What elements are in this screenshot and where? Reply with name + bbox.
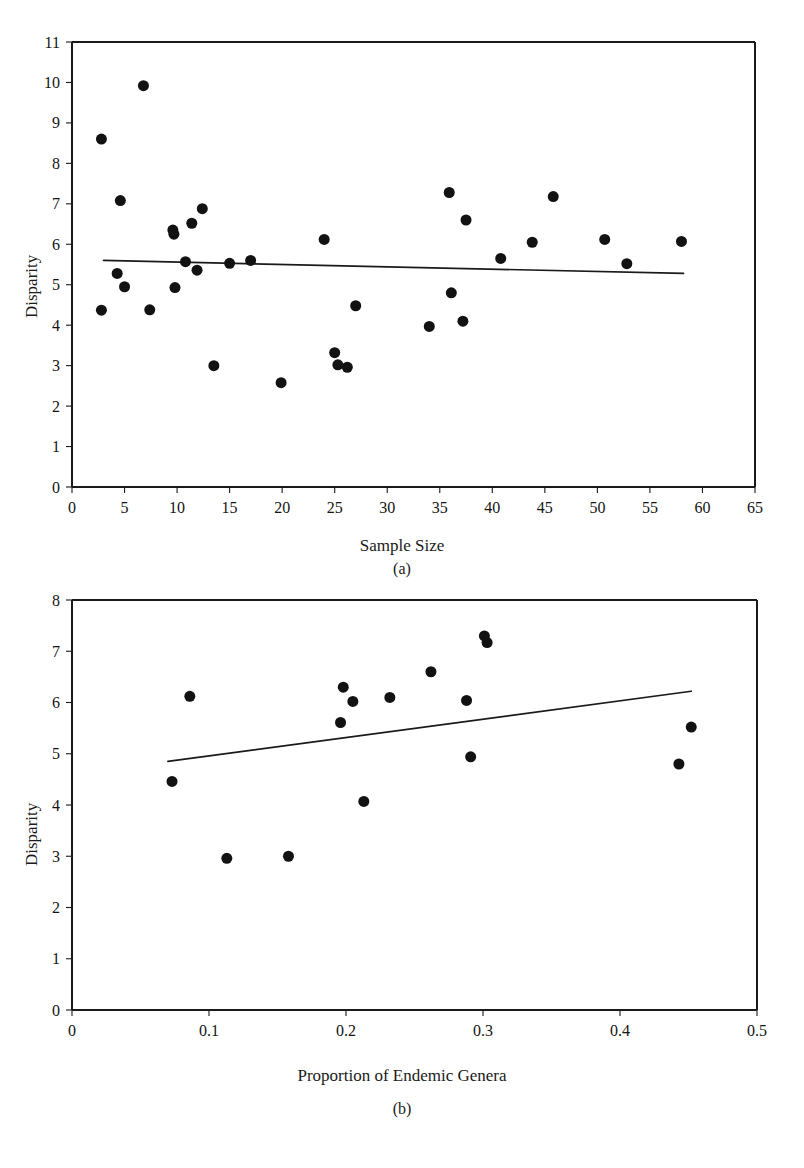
svg-text:3: 3 <box>52 848 60 865</box>
svg-text:6: 6 <box>52 236 60 253</box>
svg-text:40: 40 <box>484 499 500 516</box>
svg-text:15: 15 <box>222 499 238 516</box>
svg-text:9: 9 <box>52 114 60 131</box>
x-axis-label-a: Sample Size <box>0 536 804 556</box>
svg-text:0: 0 <box>52 1002 60 1019</box>
figure-page: 0123456789101105101520253035404550556065… <box>0 0 804 1168</box>
svg-text:45: 45 <box>537 499 553 516</box>
scatter-panel-a: 0123456789101105101520253035404550556065… <box>0 18 804 578</box>
svg-text:1: 1 <box>52 950 60 967</box>
data-point <box>495 253 506 264</box>
svg-text:5: 5 <box>52 276 60 293</box>
svg-text:35: 35 <box>432 499 448 516</box>
data-point <box>96 134 107 145</box>
scatter-plot-b-svg: 01234567800.10.20.30.40.5 <box>0 578 804 1058</box>
data-point <box>350 300 361 311</box>
y-axis-ticks: 012345678 <box>52 592 72 1019</box>
svg-text:0: 0 <box>68 499 76 516</box>
svg-text:30: 30 <box>379 499 395 516</box>
data-point <box>424 321 435 332</box>
data-point <box>96 305 107 316</box>
data-point <box>276 377 287 388</box>
data-point <box>621 258 632 269</box>
data-point <box>192 265 203 276</box>
svg-text:8: 8 <box>52 155 60 172</box>
svg-text:55: 55 <box>642 499 658 516</box>
svg-text:2: 2 <box>52 899 60 916</box>
scatter-plot-a-svg: 0123456789101105101520253035404550556065 <box>0 18 804 528</box>
data-point <box>673 759 684 770</box>
data-points <box>167 630 697 863</box>
svg-text:0.2: 0.2 <box>336 1022 356 1039</box>
y-axis-ticks: 01234567891011 <box>44 34 72 496</box>
data-point <box>461 695 472 706</box>
data-point <box>358 796 369 807</box>
data-point <box>599 234 610 245</box>
svg-text:11: 11 <box>45 34 60 51</box>
data-point <box>144 304 155 315</box>
data-point <box>197 203 208 214</box>
panel-caption-b: (b) <box>0 1100 804 1118</box>
data-points <box>96 80 687 388</box>
data-point <box>221 853 232 864</box>
svg-text:0: 0 <box>68 1022 76 1039</box>
svg-text:50: 50 <box>589 499 605 516</box>
svg-text:3: 3 <box>52 357 60 374</box>
svg-text:10: 10 <box>169 499 185 516</box>
data-point <box>335 717 346 728</box>
svg-text:7: 7 <box>52 643 60 660</box>
svg-text:7: 7 <box>52 195 60 212</box>
axis-frame <box>72 42 755 487</box>
svg-text:0.1: 0.1 <box>199 1022 219 1039</box>
y-axis-label-b: Disparity <box>22 803 42 866</box>
data-point <box>138 80 149 91</box>
data-point <box>319 234 330 245</box>
data-point <box>169 282 180 293</box>
data-point <box>457 316 468 327</box>
data-point <box>184 691 195 702</box>
data-point <box>180 256 191 267</box>
svg-text:0.5: 0.5 <box>747 1022 767 1039</box>
data-point <box>283 851 294 862</box>
data-point <box>482 637 493 648</box>
regression-line <box>168 691 691 761</box>
svg-text:2: 2 <box>52 398 60 415</box>
svg-text:20: 20 <box>274 499 290 516</box>
svg-text:0.3: 0.3 <box>473 1022 493 1039</box>
svg-text:5: 5 <box>52 745 60 762</box>
svg-text:4: 4 <box>52 317 60 334</box>
data-point <box>119 281 130 292</box>
data-point <box>465 751 476 762</box>
svg-text:1: 1 <box>52 438 60 455</box>
svg-text:60: 60 <box>694 499 710 516</box>
data-point <box>168 229 179 240</box>
data-point <box>332 359 343 370</box>
data-point <box>446 287 457 298</box>
axis-frame <box>72 600 757 1010</box>
data-point <box>686 722 697 733</box>
svg-text:6: 6 <box>52 694 60 711</box>
data-point <box>329 347 340 358</box>
data-point <box>245 255 256 266</box>
svg-text:0.4: 0.4 <box>610 1022 630 1039</box>
svg-text:4: 4 <box>52 797 60 814</box>
svg-text:0: 0 <box>52 479 60 496</box>
data-point <box>208 360 219 371</box>
panel-caption-a: (a) <box>0 560 804 578</box>
data-point <box>342 362 353 373</box>
data-point <box>384 692 395 703</box>
data-point <box>224 258 235 269</box>
scatter-panel-b: 01234567800.10.20.30.40.5 Proportion of … <box>0 578 804 1158</box>
svg-text:5: 5 <box>121 499 129 516</box>
svg-text:10: 10 <box>44 74 60 91</box>
data-point <box>461 215 472 226</box>
data-point <box>186 218 197 229</box>
svg-text:8: 8 <box>52 592 60 609</box>
data-point <box>115 195 126 206</box>
data-point <box>338 682 349 693</box>
data-point <box>527 237 538 248</box>
data-point <box>548 191 559 202</box>
y-axis-label-a: Disparity <box>22 255 42 318</box>
data-point <box>676 236 687 247</box>
svg-text:25: 25 <box>327 499 343 516</box>
